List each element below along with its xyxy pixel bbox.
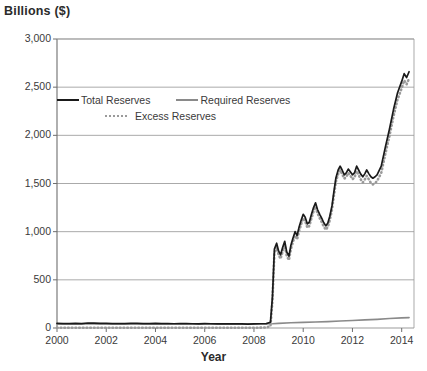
chart-legend: Total Reserves Required Reserves Excess … [57,92,387,124]
x-tick-label: 2010 [280,334,326,346]
legend-entry-total-reserves: Total Reserves [57,94,150,106]
x-tick-label: 2012 [329,334,375,346]
legend-line-total-reserves-icon [57,99,79,101]
legend-label-total-reserves: Total Reserves [81,94,150,106]
y-tick-label: 1,500 [5,177,51,189]
legend-label-required-reserves: Required Reserves [200,94,290,106]
x-tick-label: 2000 [34,334,80,346]
reserves-line-chart: Billions ($) 05001,0001,5002,0002,5003,0… [0,0,427,371]
legend-row-primary: Total Reserves Required Reserves [57,92,387,108]
legend-entry-excess-reserves: Excess Reserves [105,110,216,122]
y-tick-label: 3,000 [5,32,51,44]
x-tick-label: 2014 [379,334,425,346]
legend-line-required-reserves-icon [176,99,198,101]
x-tick-label: 2006 [182,334,228,346]
y-tick-label: 500 [5,273,51,285]
legend-entry-required-reserves: Required Reserves [176,94,290,106]
y-tick-label: 2,500 [5,80,51,92]
legend-row-secondary: Excess Reserves [57,108,387,124]
plot-area [0,0,427,371]
legend-label-excess-reserves: Excess Reserves [135,110,216,122]
x-tick-label: 2008 [231,334,277,346]
y-tick-label: 1,000 [5,225,51,237]
y-tick-label: 2,000 [5,128,51,140]
legend-line-excess-reserves-icon [105,115,127,117]
x-axis-title: Year [0,350,427,364]
x-tick-label: 2002 [83,334,129,346]
y-tick-label: 0 [5,321,51,333]
x-tick-label: 2004 [132,334,178,346]
